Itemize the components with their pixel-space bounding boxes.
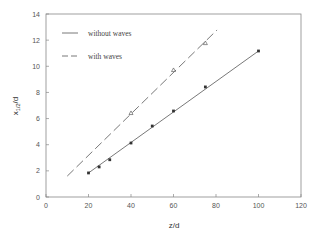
y-axis-label-sub: 1/2 <box>15 104 21 112</box>
data-point-square <box>87 172 90 175</box>
y-tick-label: 2 <box>36 167 40 174</box>
data-point-triangle <box>172 68 176 72</box>
y-tick-label: 4 <box>36 141 40 148</box>
x-axis-label: z/d <box>169 221 180 230</box>
x-tick-label: 0 <box>44 202 48 209</box>
data-point-square <box>108 158 111 161</box>
y-tick-label: 8 <box>36 89 40 96</box>
legend-label-with-waves: with waves <box>88 52 122 61</box>
data-point-square <box>151 125 154 128</box>
plot-frame <box>46 14 301 197</box>
x-tick-label: 100 <box>253 202 265 209</box>
x-tick-label: 60 <box>170 202 178 209</box>
data-point-triangle <box>129 111 133 115</box>
data-point-square <box>130 142 133 145</box>
y-tick-label: 14 <box>32 11 40 18</box>
x-tick-label: 120 <box>295 202 307 209</box>
data-point-square <box>98 166 101 169</box>
y-axis-ticks: 02468101214 <box>32 11 49 201</box>
legend-label-without-waves: without waves <box>88 29 132 38</box>
legend: without waves with waves <box>62 29 132 61</box>
y-tick-label: 6 <box>36 115 40 122</box>
x-tick-label: 80 <box>212 202 220 209</box>
x-tick-label: 40 <box>127 202 135 209</box>
x-axis-ticks: 020406080100120 <box>44 194 307 209</box>
y-axis-label: x1/2/d <box>11 97 21 115</box>
x-tick-label: 20 <box>85 202 93 209</box>
data-point-square <box>204 86 207 89</box>
line-chart: 020406080100120 02468101214 without wave… <box>0 0 318 239</box>
data-point-square <box>257 50 260 53</box>
data-point-square <box>172 110 175 113</box>
y-axis-label-tail: /d <box>11 97 20 104</box>
y-tick-label: 12 <box>32 37 40 44</box>
y-tick-label: 0 <box>36 194 40 201</box>
y-tick-label: 10 <box>32 63 40 70</box>
